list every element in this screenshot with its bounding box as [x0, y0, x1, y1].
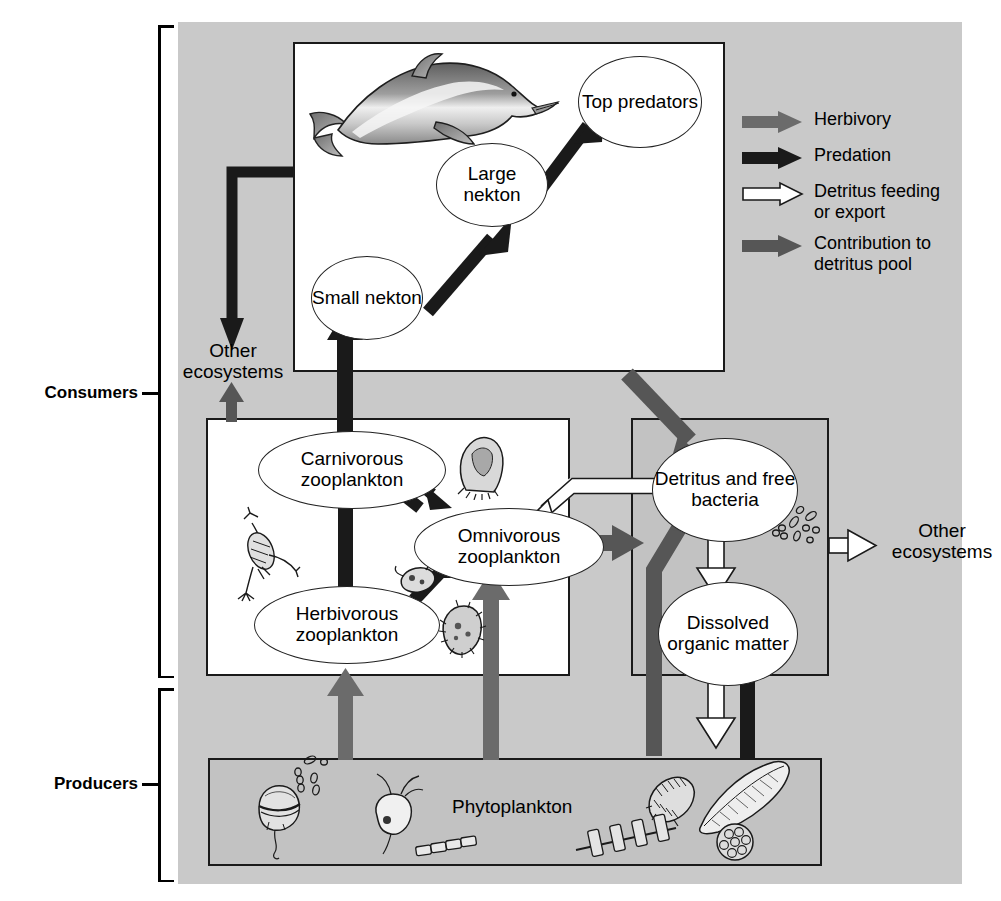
legend-item-herbivory: Herbivory: [742, 108, 940, 135]
legend-label-predation: Predation: [814, 144, 891, 166]
phytoplankton-box-title: Phytoplankton: [452, 796, 572, 818]
detritus-contribution-arrow-icon: [742, 233, 804, 259]
consumers-bracket-top-tick: [158, 25, 174, 28]
node-small-nekton[interactable]: Small nekton: [311, 256, 423, 340]
legend-item-detritus-feeding: Detritus feeding or export: [742, 180, 940, 223]
node-dissolved-organic-matter[interactable]: Dissolved organic matter: [658, 582, 798, 686]
producers-bracket-mid-tick: [142, 783, 159, 786]
category-label-producers: Producers: [0, 774, 138, 794]
predation-arrow-icon: [742, 145, 804, 171]
consumers-bracket-mid-tick: [142, 392, 159, 395]
node-top-predators[interactable]: Top predators: [578, 56, 702, 148]
node-carnivorous-zooplankton[interactable]: Carnivorous zooplankton: [258, 431, 446, 509]
label-other-ecosystems-right: Other ecosystems: [884, 520, 1000, 563]
producers-bracket-bottom-tick: [158, 880, 174, 883]
legend: Herbivory Predation Detritus feeding or …: [742, 108, 940, 284]
node-omnivorous-zooplankton[interactable]: Omnivorous zooplankton: [414, 508, 604, 586]
legend-label-detritus-feeding: Detritus feeding or export: [814, 180, 940, 223]
consumers-bracket-bottom-tick: [158, 676, 174, 679]
label-other-ecosystems-left: Other ecosystems: [166, 340, 300, 383]
legend-item-predation: Predation: [742, 144, 940, 171]
node-large-nekton[interactable]: Large nekton: [436, 143, 548, 227]
food-web-diagram: Consumers Producers: [0, 0, 1001, 901]
node-detritus-and-free-bacteria[interactable]: Detritus and free bacteria: [652, 438, 798, 542]
detritus-feeding-arrow-icon: [742, 181, 804, 207]
consumers-bracket-vertical: [158, 25, 161, 678]
herbivory-arrow-icon: [742, 109, 804, 135]
legend-label-herbivory: Herbivory: [814, 108, 891, 130]
node-herbivorous-zooplankton[interactable]: Herbivorous zooplankton: [254, 586, 440, 664]
legend-item-detritus-contribution: Contribution to detritus pool: [742, 232, 940, 275]
producers-bracket-top-tick: [158, 688, 174, 691]
legend-label-detritus-contribution: Contribution to detritus pool: [814, 232, 931, 275]
category-label-consumers: Consumers: [0, 383, 138, 403]
